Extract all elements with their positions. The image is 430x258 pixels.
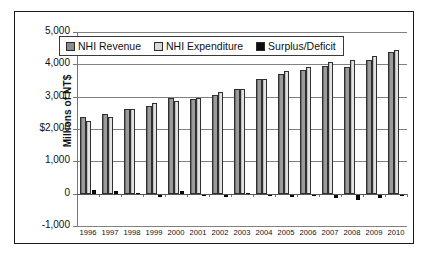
bar-nhi-revenue-1999 — [146, 106, 151, 193]
legend-swatch-icon — [66, 42, 75, 51]
bar-nhi-expenditure-2008 — [350, 60, 355, 194]
bar-nhi-revenue-2000 — [168, 98, 173, 193]
bar-nhi-revenue-1998 — [124, 109, 129, 194]
legend-item-surplus-deficit: Surplus/Deficit — [256, 40, 336, 52]
bar-nhi-expenditure-2000 — [174, 101, 179, 194]
bar-nhi-revenue-2001 — [190, 99, 195, 194]
bar-nhi-expenditure-2007 — [328, 62, 333, 194]
bar-nhi-expenditure-1997 — [108, 117, 113, 194]
bar-nhi-revenue-2005 — [278, 74, 283, 194]
bar-nhi-revenue-1997 — [102, 114, 107, 193]
bar-nhi-revenue-2002 — [212, 95, 217, 193]
y-tick-label: 1,000 — [14, 154, 70, 165]
bar-nhi-expenditure-2006 — [306, 67, 311, 193]
y-tick-mark — [73, 97, 77, 98]
bar-nhi-revenue-2006 — [300, 70, 305, 194]
bar-nhi-expenditure-1999 — [152, 103, 157, 194]
bar-nhi-revenue-2008 — [344, 67, 349, 194]
chart-legend: NHI RevenueNHI ExpenditureSurplus/Defici… — [59, 36, 344, 56]
bar-nhi-revenue-2009 — [366, 60, 371, 194]
zero-axis-line — [77, 194, 407, 195]
bar-nhi-expenditure-2001 — [196, 98, 201, 193]
legend-label: NHI Revenue — [78, 40, 141, 52]
gridline — [77, 32, 407, 33]
bar-nhi-expenditure-2002 — [218, 92, 223, 193]
y-tick-label: 0 — [14, 187, 70, 198]
bar-surplus-deficit-2008 — [356, 194, 360, 201]
legend-swatch-icon — [256, 42, 265, 51]
bar-nhi-revenue-2007 — [322, 66, 327, 194]
gridline — [77, 226, 407, 227]
x-tick-label-2010: 2010 — [376, 228, 416, 237]
y-tick-mark — [73, 226, 77, 227]
y-tick-label: 3,000 — [14, 90, 70, 101]
plot-area: 5,0004,0003,000$2,0001,0000-1,000 199619… — [77, 32, 407, 226]
y-tick-mark — [73, 129, 77, 130]
y-axis-title: Millions of NT$ — [62, 51, 76, 171]
legend-item-nhi-expenditure: NHI Expenditure — [154, 40, 243, 52]
chart-frame: Millions of NT$ 5,0004,0003,000$2,0001,0… — [14, 11, 414, 244]
bar-nhi-expenditure-2010 — [394, 50, 399, 194]
bar-nhi-revenue-1996 — [80, 117, 85, 193]
x-tick-mark — [407, 194, 408, 197]
y-tick-mark — [73, 64, 77, 65]
y-tick-mark — [73, 161, 77, 162]
bar-nhi-expenditure-1998 — [130, 109, 135, 193]
bar-nhi-expenditure-2009 — [372, 56, 377, 193]
y-tick-label: 4,000 — [14, 57, 70, 68]
bar-nhi-expenditure-2003 — [240, 89, 245, 193]
bar-nhi-expenditure-2004 — [262, 79, 267, 194]
legend-swatch-icon — [154, 42, 163, 51]
bar-nhi-revenue-2010 — [388, 52, 393, 194]
y-tick-label: 5,000 — [14, 25, 70, 36]
bar-nhi-expenditure-1996 — [86, 121, 91, 194]
bar-nhi-revenue-2004 — [256, 79, 261, 193]
y-tick-label: -1,000 — [14, 219, 70, 230]
legend-item-nhi-revenue: NHI Revenue — [66, 40, 141, 52]
legend-label: Surplus/Deficit — [268, 40, 336, 52]
bar-nhi-revenue-2003 — [234, 89, 239, 194]
y-tick-label: $2,000 — [14, 122, 70, 133]
gridline — [77, 64, 407, 65]
legend-label: NHI Expenditure — [166, 40, 243, 52]
bar-nhi-expenditure-2005 — [284, 71, 289, 194]
y-tick-mark — [73, 32, 77, 33]
